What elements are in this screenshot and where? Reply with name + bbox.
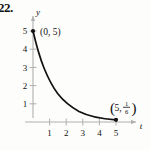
y-tick-label-5: 5 xyxy=(23,26,28,36)
y-tick-label-3: 3 xyxy=(23,63,28,73)
x-tick-label-1: 1 xyxy=(47,128,52,138)
point-label-0-5: (0, 5) xyxy=(40,27,61,38)
figure-container: 22. 1 2 3 4 5 1 2 3 4 5 y t xyxy=(0,0,150,150)
y-tick-label-2: 2 xyxy=(23,81,28,91)
t-axis-arrowhead xyxy=(131,120,136,125)
point-marker-0-5 xyxy=(31,29,35,33)
point-label-x-value: 5, xyxy=(115,103,122,113)
t-axis-label: t xyxy=(140,121,143,131)
point-label-5-one-sixth: ( 5, 1 6 ) xyxy=(110,100,137,118)
x-tick-label-2: 2 xyxy=(64,128,69,138)
y-tick-label-1: 1 xyxy=(23,99,28,109)
point-label-denominator: 6 xyxy=(125,108,129,115)
y-tick-label-4: 4 xyxy=(23,44,28,54)
point-label-close-paren: ) xyxy=(132,100,137,117)
x-tick-label-3: 3 xyxy=(81,128,86,138)
decay-curve xyxy=(33,31,116,120)
y-axis-arrowhead xyxy=(31,16,35,21)
x-tick-label-4: 4 xyxy=(97,128,102,138)
plot-svg: 1 2 3 4 5 1 2 3 4 5 y t (0, 5) ( 5, 1 6 … xyxy=(0,0,150,150)
point-marker-5-one-sixth xyxy=(114,118,118,122)
x-tick-label-5: 5 xyxy=(114,128,119,138)
point-label-numerator: 1 xyxy=(125,100,128,107)
y-axis-label: y xyxy=(35,7,40,17)
